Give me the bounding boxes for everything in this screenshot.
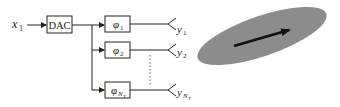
output-y: y bbox=[176, 23, 182, 35]
antenna-icon bbox=[168, 18, 176, 30]
phi-symbol: φ bbox=[113, 18, 119, 30]
phi-symbol: φ bbox=[113, 44, 119, 56]
input-label: x 1 bbox=[11, 17, 23, 33]
dac-label: DAC bbox=[48, 20, 70, 31]
output-sub: 2 bbox=[183, 52, 187, 60]
antenna-icon bbox=[168, 44, 176, 56]
input-x: x bbox=[11, 17, 18, 31]
phase-shifter-1: φ 1 bbox=[105, 16, 130, 32]
beam-pattern bbox=[191, 0, 333, 77]
phi-sub: 1 bbox=[120, 24, 124, 32]
output-label-nt: y N T bbox=[176, 86, 192, 101]
phase-shifter-nt: φ N T bbox=[105, 82, 130, 99]
output-y: y bbox=[176, 86, 182, 98]
antenna-icon bbox=[168, 84, 176, 96]
phi-symbol: φ bbox=[111, 84, 117, 96]
phi-sub: 2 bbox=[120, 50, 124, 58]
output-subsub: T bbox=[188, 96, 192, 101]
output-sub: 1 bbox=[183, 29, 187, 37]
dac-block: DAC bbox=[47, 16, 72, 33]
output-label-1: y 1 bbox=[176, 23, 187, 37]
input-sub: 1 bbox=[19, 24, 23, 33]
phase-shifter-2: φ 2 bbox=[105, 42, 130, 58]
output-y: y bbox=[176, 46, 182, 58]
beamforming-diagram: x 1 DAC φ 1 φ 2 φ N T bbox=[0, 0, 340, 107]
output-label-2: y 2 bbox=[176, 46, 187, 60]
